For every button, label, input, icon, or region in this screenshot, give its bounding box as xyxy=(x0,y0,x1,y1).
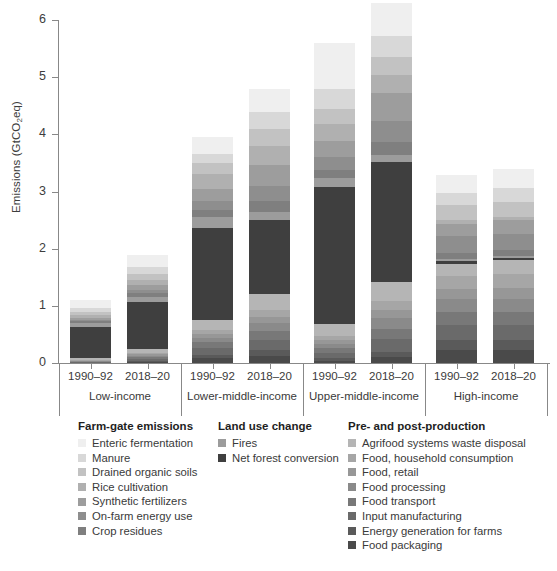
x-axis-group-separator xyxy=(181,364,182,416)
bar-segment xyxy=(371,155,412,162)
x-axis-tick xyxy=(91,364,92,369)
bar-segment xyxy=(127,362,168,363)
x-axis-period-label: 2018–20 xyxy=(234,370,306,382)
legend-item-label: Rice cultivation xyxy=(92,480,168,495)
legend-item[interactable]: Drained organic soils xyxy=(78,465,198,480)
legend-column: Farm-gate emissionsEnteric fermentationM… xyxy=(78,420,198,538)
bar-segment xyxy=(249,294,290,310)
legend-item-label: Fires xyxy=(232,436,257,451)
plot-area: Emissions (GtCO2eq) 0123456 1990–922018–… xyxy=(0,0,557,418)
x-axis-tick xyxy=(514,364,515,369)
legend-swatch-icon xyxy=(78,439,86,447)
x-axis-group-separator xyxy=(425,364,426,416)
x-axis-tick xyxy=(213,364,214,369)
bar-segment xyxy=(371,142,412,155)
legend-item-label: Food, retail xyxy=(362,465,419,480)
legend-swatch-icon xyxy=(348,454,356,462)
legend-item[interactable]: Agrifood systems waste disposal xyxy=(348,436,526,451)
legend-item[interactable]: Food, retail xyxy=(348,465,526,480)
legend-item-label: Food, household consumption xyxy=(362,451,513,466)
legend-item[interactable]: Food processing xyxy=(348,480,526,495)
bar-segment xyxy=(371,93,412,120)
legend-item[interactable]: Synthetic fertilizers xyxy=(78,494,198,509)
bar-segment xyxy=(371,162,412,282)
x-axis-period-label: 2018–20 xyxy=(356,370,428,382)
legend-swatch-icon xyxy=(78,498,86,506)
bar-segment xyxy=(436,312,477,326)
bar-segment xyxy=(436,340,477,350)
bar-segment xyxy=(249,129,290,146)
legend-item-label: Energy generation for farms xyxy=(362,524,502,539)
bar-segment xyxy=(436,289,477,299)
bar-segment xyxy=(314,141,355,157)
bar-segment xyxy=(371,57,412,75)
bar-segment xyxy=(493,220,534,234)
bar-stack xyxy=(371,3,412,363)
legend-item[interactable]: On-farm energy use xyxy=(78,509,198,524)
bar-segment xyxy=(314,89,355,109)
legend-item-label: Synthetic fertilizers xyxy=(92,494,187,509)
legend-item[interactable]: Food packaging xyxy=(348,538,526,553)
bar-segment xyxy=(314,187,355,324)
bar-segment xyxy=(249,89,290,112)
bar-stack xyxy=(436,175,477,363)
legend-item[interactable]: Fires xyxy=(218,436,339,451)
bar-segment xyxy=(371,357,412,363)
legend-swatch-icon xyxy=(78,454,86,462)
legend-column: Land use changeFiresNet forest conversio… xyxy=(218,420,339,465)
bars-layer xyxy=(0,0,557,363)
bar-segment xyxy=(192,358,233,363)
bar-segment xyxy=(249,165,290,186)
bar-segment xyxy=(249,212,290,220)
bar-segment xyxy=(371,36,412,57)
x-axis-tick xyxy=(392,364,393,369)
x-axis-tick xyxy=(457,364,458,369)
bar-segment xyxy=(493,350,534,363)
bar-segment xyxy=(436,325,477,340)
bar-segment xyxy=(192,320,233,330)
chart-figure: Emissions (GtCO2eq) 0123456 1990–922018–… xyxy=(0,0,557,571)
bar-segment xyxy=(493,188,534,202)
x-axis-period-label: 2018–20 xyxy=(478,370,550,382)
legend-column-title: Land use change xyxy=(218,420,339,432)
legend-swatch-icon xyxy=(78,468,86,476)
bar-segment xyxy=(493,202,534,217)
legend-swatch-icon xyxy=(348,498,356,506)
bar-segment xyxy=(70,300,111,307)
legend-item[interactable]: Energy generation for farms xyxy=(348,524,526,539)
legend-item[interactable]: Net forest conversion xyxy=(218,451,339,466)
x-axis-tick xyxy=(148,364,149,369)
legend-item[interactable]: Input manufacturing xyxy=(348,509,526,524)
legend-swatch-icon xyxy=(348,439,356,447)
bar-segment xyxy=(314,361,355,363)
x-axis-period-label: 2018–20 xyxy=(112,370,184,382)
bar-segment xyxy=(493,260,534,274)
bar-segment xyxy=(192,174,233,189)
bar-segment xyxy=(314,178,355,187)
bar-segment xyxy=(493,288,534,299)
legend-swatch-icon xyxy=(218,454,226,462)
bar-segment xyxy=(493,274,534,288)
legend-item[interactable]: Crop residues xyxy=(78,524,198,539)
legend-item[interactable]: Food transport xyxy=(348,494,526,509)
legend-swatch-icon xyxy=(348,468,356,476)
bar-segment xyxy=(371,318,412,328)
legend-item[interactable]: Manure xyxy=(78,451,198,466)
legend-item[interactable]: Enteric fermentation xyxy=(78,436,198,451)
legend-item-label: Food packaging xyxy=(362,538,442,553)
bar-segment xyxy=(249,201,290,212)
legend-item[interactable]: Rice cultivation xyxy=(78,480,198,495)
bar-stack xyxy=(70,300,111,363)
legend-item[interactable]: Food, household consumption xyxy=(348,451,526,466)
bar-segment xyxy=(70,362,111,363)
bar-segment xyxy=(371,282,412,301)
bar-segment xyxy=(249,356,290,363)
x-axis-group-label: Upper-middle-income xyxy=(303,390,425,402)
bar-segment xyxy=(192,210,233,217)
bar-segment xyxy=(371,301,412,310)
bar-segment xyxy=(314,43,355,89)
x-axis-group-label: Low-income xyxy=(59,390,181,402)
x-axis-group-label: Lower-middle-income xyxy=(181,390,303,402)
legend-swatch-icon xyxy=(348,483,356,491)
bar-segment xyxy=(192,348,233,355)
